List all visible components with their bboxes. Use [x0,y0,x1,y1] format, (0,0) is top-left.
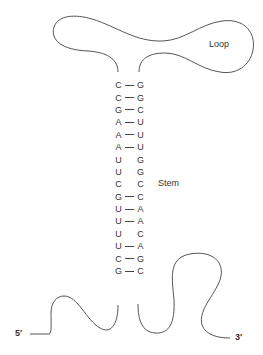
hydrogen-bond-line [125,246,134,247]
hydrogen-bond-line [125,258,134,259]
left-base: G [114,265,123,277]
unpaired-gap [125,159,134,160]
left-base: G [114,104,123,116]
left-base: A [114,141,123,153]
left-base: A [114,129,123,141]
base-pair-row: UC [114,228,154,240]
base-pair-row: GC [114,191,154,203]
right-base: U [136,129,145,141]
base-pair-row: UG [114,166,154,178]
unpaired-gap [125,233,134,234]
right-base: G [136,166,145,178]
right-base: C [136,228,145,240]
base-pair-row: CC [114,178,154,190]
five-prime-tail [30,296,118,334]
left-base: U [114,215,123,227]
left-base: U [114,240,123,252]
right-base: U [136,141,145,153]
right-base: U [136,116,145,128]
base-pair-row: CG [114,252,154,264]
stem-label: Stem [158,178,179,188]
right-base: C [136,178,145,190]
base-pair-row: UG [114,153,154,165]
right-base: A [136,240,145,252]
stem-base-pairs: CGCGGCAUAUAUUGUGCCGCUAUAUCUACGGC [114,79,154,277]
stem-loop-diagram: Loop Stem 5′ 3′ CGCGGCAUAUAUUGUGCCGCUAUA… [0,0,263,355]
base-pair-row: CG [114,79,154,91]
hydrogen-bond-line [125,122,134,123]
hydrogen-bond-line [125,221,134,222]
base-pair-row: CG [114,91,154,103]
left-base: C [114,79,123,91]
unpaired-gap [125,171,134,172]
base-pair-row: UA [114,203,154,215]
unpaired-gap [125,184,134,185]
base-pair-row: GC [114,265,154,277]
base-pair-row: AU [114,129,154,141]
left-base: C [114,178,123,190]
left-base: G [114,191,123,203]
right-base: A [136,203,145,215]
left-base: C [114,92,123,104]
right-base: G [136,79,145,91]
loop-label: Loop [209,39,229,49]
base-pair-row: AU [114,116,154,128]
base-pair-row: GC [114,104,154,116]
hydrogen-bond-line [125,85,134,86]
right-base: G [136,253,145,265]
left-base: U [114,228,123,240]
right-base: C [136,104,145,116]
right-base: A [136,215,145,227]
hydrogen-bond-line [125,147,134,148]
three-prime-label: 3′ [235,332,242,342]
left-base: U [114,203,123,215]
hydrogen-bond-line [125,109,134,110]
hydrogen-bond-line [125,97,134,98]
hydrogen-bond-line [125,271,134,272]
right-base: G [136,92,145,104]
base-pair-row: UA [114,215,154,227]
left-base: U [114,166,123,178]
hydrogen-bond-line [125,134,134,135]
right-base: C [136,265,145,277]
left-base: U [114,154,123,166]
five-prime-label: 5′ [15,328,22,338]
hydrogen-bond-line [125,196,134,197]
base-pair-row: AU [114,141,154,153]
base-pair-row: UA [114,240,154,252]
right-base: C [136,191,145,203]
left-base: C [114,253,123,265]
left-base: A [114,116,123,128]
hydrogen-bond-line [125,209,134,210]
right-base: G [136,154,145,166]
